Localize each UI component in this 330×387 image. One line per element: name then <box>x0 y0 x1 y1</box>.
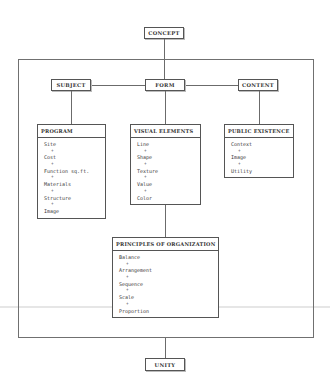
connector-content-public <box>259 91 260 124</box>
principle-item: Proportion <box>119 308 218 315</box>
connector-frame-form <box>164 60 165 79</box>
plus-connector: + <box>44 174 105 181</box>
principle-item: Scale <box>119 294 218 301</box>
connector-subject-form <box>90 85 145 86</box>
plus-connector: + <box>119 301 218 308</box>
principle-item: Balance <box>119 254 218 261</box>
public-existence-item: Image <box>231 154 293 161</box>
plus-connector: + <box>44 201 105 208</box>
plus-connector: + <box>137 148 200 155</box>
principles-title: PRINCIPLES OF ORGANIZATION <box>113 238 218 251</box>
plus-connector: + <box>231 148 293 155</box>
plus-connector: + <box>137 174 200 181</box>
connector-concept-frame <box>164 39 165 59</box>
concept-node: CONCEPT <box>144 27 184 39</box>
principles-box: PRINCIPLES OF ORGANIZATION Balance + Arr… <box>112 237 219 318</box>
visual-element-item: Texture <box>137 168 200 175</box>
program-item: Cost <box>44 154 105 161</box>
program-item: Function sq.ft. <box>44 168 105 175</box>
public-existence-item: Context <box>231 141 293 148</box>
subject-node: SUBJECT <box>51 79 91 91</box>
plus-connector: + <box>137 188 200 195</box>
plus-connector: + <box>44 188 105 195</box>
plus-connector: + <box>231 161 293 168</box>
visual-element-item: Shape <box>137 154 200 161</box>
plus-connector: + <box>119 287 218 294</box>
principle-item: Sequence <box>119 281 218 288</box>
visual-element-item: Color <box>137 195 200 202</box>
public-existence-title: PUBLIC EXISTENCE <box>225 125 293 138</box>
principle-item: Arrangement <box>119 267 218 274</box>
content-node: CONTENT <box>238 79 278 91</box>
connector-frame-unity <box>165 338 166 358</box>
plus-connector: + <box>44 161 105 168</box>
content-label: CONTENT <box>242 82 274 88</box>
visual-elements-title: VISUAL ELEMENTS <box>131 125 200 138</box>
visual-element-item: Value <box>137 181 200 188</box>
visual-element-item: Line <box>137 141 200 148</box>
connector-form-visual <box>165 91 166 124</box>
concept-label: CONCEPT <box>148 30 179 36</box>
program-item: Image <box>44 208 105 215</box>
unity-node: UNITY <box>145 358 185 371</box>
subject-label: SUBJECT <box>56 82 85 88</box>
connector-visual-principles <box>165 205 166 237</box>
public-existence-item: Utility <box>231 168 293 175</box>
program-title: PROGRAM <box>38 125 105 138</box>
program-item: Structure <box>44 195 105 202</box>
visual-elements-box: VISUAL ELEMENTS Line + Shape + Texture +… <box>130 124 201 205</box>
program-item: Materials <box>44 181 105 188</box>
connector-subject-program <box>71 91 72 124</box>
connector-form-content <box>184 85 238 86</box>
plus-connector: + <box>44 148 105 155</box>
plus-connector: + <box>119 261 218 268</box>
plus-connector: + <box>137 161 200 168</box>
program-item: Site <box>44 141 105 148</box>
form-node: FORM <box>145 79 185 91</box>
public-existence-box: PUBLIC EXISTENCE Context + Image + Utili… <box>224 124 294 178</box>
plus-connector: + <box>119 274 218 281</box>
form-label: FORM <box>155 82 174 88</box>
program-box: PROGRAM Site + Cost + Function sq.ft. + … <box>37 124 106 219</box>
unity-label: UNITY <box>155 362 176 368</box>
